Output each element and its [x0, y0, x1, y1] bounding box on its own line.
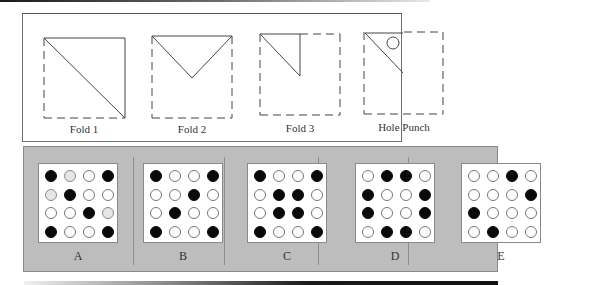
- hole-white-icon: [487, 170, 499, 182]
- bottom-edge-bar: [24, 281, 498, 285]
- hole-punch-label: Hole Punch: [359, 121, 449, 133]
- option-divider: [133, 157, 134, 265]
- hole-white-icon: [468, 226, 480, 238]
- hole-black-icon: [273, 207, 285, 219]
- hole-black-icon: [468, 207, 480, 219]
- hole-black-icon: [273, 189, 285, 201]
- hole-white-icon: [292, 170, 304, 182]
- hole-white-icon: [506, 207, 518, 219]
- hole-white-icon: [468, 170, 480, 182]
- option-a[interactable]: A: [38, 147, 128, 271]
- hole-white-icon: [273, 226, 285, 238]
- hole-white-icon: [525, 170, 537, 182]
- hole-white-icon: [487, 189, 499, 201]
- hole-white-icon: [381, 189, 393, 201]
- option-a-grid: [38, 163, 118, 243]
- hole-white-icon: [45, 207, 57, 219]
- hole-white-icon: [64, 207, 76, 219]
- option-c-label: C: [247, 249, 327, 264]
- hole-black-icon: [400, 170, 412, 182]
- hole-black-icon: [292, 189, 304, 201]
- hole-black-icon: [254, 170, 266, 182]
- hole-white-icon: [400, 189, 412, 201]
- hole-white-icon: [188, 207, 200, 219]
- option-a-label: A: [38, 249, 118, 264]
- option-b[interactable]: B: [143, 147, 233, 271]
- hole-white-icon: [292, 226, 304, 238]
- hole-white-icon: [525, 207, 537, 219]
- hole-punch-dashed-outline: [0, 0, 592, 145]
- hole-black-icon: [150, 170, 162, 182]
- hole-white-icon: [419, 226, 431, 238]
- hole-white-icon: [207, 207, 219, 219]
- hole-white-icon: [169, 189, 181, 201]
- hole-white-icon: [487, 207, 499, 219]
- option-b-grid: [143, 163, 223, 243]
- hole-black-icon: [150, 226, 162, 238]
- option-c[interactable]: C: [247, 147, 337, 271]
- option-d[interactable]: D: [355, 147, 445, 271]
- hole-white-icon: [169, 226, 181, 238]
- hole-white-icon: [207, 189, 219, 201]
- answer-options-panel: A B C D E: [23, 146, 498, 272]
- hole-white-icon: [506, 226, 518, 238]
- hole-white-icon: [525, 226, 537, 238]
- option-c-grid: [247, 163, 327, 243]
- hole-white-icon: [400, 207, 412, 219]
- hole-gray-icon: [45, 189, 57, 201]
- hole-black-icon: [525, 189, 537, 201]
- hole-white-icon: [150, 189, 162, 201]
- hole-black-icon: [45, 170, 57, 182]
- hole-black-icon: [419, 207, 431, 219]
- hole-white-icon: [468, 189, 480, 201]
- hole-white-icon: [150, 207, 162, 219]
- hole-black-icon: [207, 170, 219, 182]
- hole-gray-icon: [102, 207, 114, 219]
- hole-black-icon: [311, 226, 323, 238]
- option-e-label: E: [461, 249, 541, 264]
- hole-black-icon: [292, 207, 304, 219]
- hole-black-icon: [207, 226, 219, 238]
- hole-black-icon: [102, 226, 114, 238]
- hole-white-icon: [273, 170, 285, 182]
- hole-black-icon: [169, 207, 181, 219]
- hole-white-icon: [311, 207, 323, 219]
- hole-white-icon: [362, 170, 374, 182]
- hole-black-icon: [64, 189, 76, 201]
- hole-white-icon: [254, 189, 266, 201]
- hole-black-icon: [381, 170, 393, 182]
- option-e[interactable]: E: [461, 147, 551, 271]
- hole-white-icon: [506, 189, 518, 201]
- hole-white-icon: [381, 207, 393, 219]
- hole-black-icon: [400, 226, 412, 238]
- hole-black-icon: [45, 226, 57, 238]
- hole-white-icon: [311, 189, 323, 201]
- hole-white-icon: [188, 170, 200, 182]
- hole-white-icon: [362, 226, 374, 238]
- hole-black-icon: [102, 170, 114, 182]
- option-e-grid: [461, 163, 541, 243]
- hole-black-icon: [83, 207, 95, 219]
- hole-black-icon: [506, 170, 518, 182]
- hole-white-icon: [102, 189, 114, 201]
- hole-white-icon: [83, 226, 95, 238]
- option-b-label: B: [143, 249, 223, 264]
- hole-white-icon: [83, 189, 95, 201]
- hole-white-icon: [254, 207, 266, 219]
- option-d-grid: [355, 163, 435, 243]
- hole-white-icon: [64, 226, 76, 238]
- hole-black-icon: [311, 170, 323, 182]
- hole-black-icon: [254, 226, 266, 238]
- hole-white-icon: [169, 170, 181, 182]
- hole-black-icon: [419, 189, 431, 201]
- hole-gray-icon: [64, 170, 76, 182]
- hole-black-icon: [381, 226, 393, 238]
- hole-black-icon: [188, 189, 200, 201]
- hole-black-icon: [362, 207, 374, 219]
- hole-black-icon: [487, 226, 499, 238]
- option-d-label: D: [355, 249, 435, 264]
- hole-white-icon: [83, 170, 95, 182]
- hole-white-icon: [188, 226, 200, 238]
- hole-white-icon: [419, 170, 431, 182]
- hole-black-icon: [362, 189, 374, 201]
